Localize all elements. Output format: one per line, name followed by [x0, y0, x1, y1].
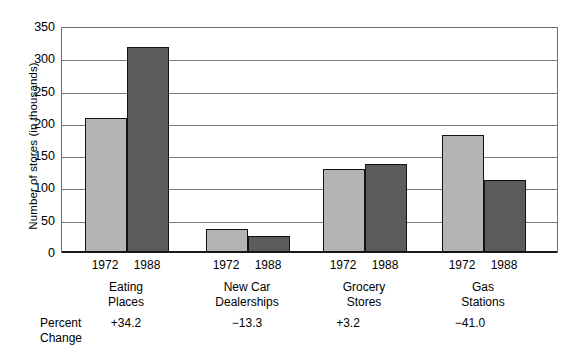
x-group-label-gas-stations: Gas Stations [461, 280, 504, 309]
y-tick-50: 50 [9, 214, 55, 227]
bar-eating-places-1988 [127, 47, 169, 252]
x-group-label-new-car-dealerships: New Car Dealerships [215, 280, 278, 309]
x-year-label-new-car-dealerships-1988: 1988 [255, 258, 282, 272]
y-tick-150: 150 [9, 150, 55, 163]
x-year-label-gas-stations-1988: 1988 [491, 258, 518, 272]
y-tick-250: 250 [9, 85, 55, 98]
y-tick-300: 300 [9, 53, 55, 66]
bar-new-car-dealerships-1972 [206, 229, 248, 252]
percent-change-eating-places: +34.2 [111, 316, 141, 331]
x-year-label-new-car-dealerships-1972: 1972 [213, 258, 240, 272]
x-group-label-eating-places: Eating Places [108, 280, 144, 309]
x-year-label-eating-places-1988: 1988 [134, 258, 161, 272]
x-group-label-line-2: Places [108, 295, 144, 310]
bar-grocery-stores-1988 [365, 164, 407, 252]
y-tick-100: 100 [9, 182, 55, 195]
percent-change-gas-stations: −41.0 [455, 316, 485, 331]
percent-change-new-car-dealerships: −13.3 [232, 316, 262, 331]
percent-change-row-label-line-2: Change [40, 331, 82, 346]
bar-eating-places-1972 [85, 118, 127, 252]
bar-gas-stations-1988 [484, 180, 526, 252]
percent-change-grocery-stores: +3.2 [336, 316, 360, 331]
x-group-label-line-1: New Car [215, 280, 278, 295]
x-group-label-grocery-stores: Grocery Stores [343, 280, 386, 309]
y-tick-350: 350 [9, 21, 55, 34]
y-axis-tick-labels: 350 300 250 200 150 100 50 0 [5, 27, 55, 253]
x-group-label-line-2: Stores [343, 295, 386, 310]
plot-area [61, 27, 558, 253]
x-year-label-eating-places-1972: 1972 [92, 258, 119, 272]
y-tick-200: 200 [9, 118, 55, 131]
x-group-label-line-2: Stations [461, 295, 504, 310]
percent-change-row-label: Percent Change [40, 316, 82, 345]
bar-new-car-dealerships-1988 [248, 236, 290, 252]
x-year-label-grocery-stores-1972: 1972 [330, 258, 357, 272]
x-group-label-line-1: Grocery [343, 280, 386, 295]
percent-change-row-label-line-1: Percent [40, 316, 82, 331]
x-group-label-line-1: Eating [108, 280, 144, 295]
bar-chart: Number of stores (in thousands) 350 300 … [0, 0, 577, 356]
x-year-label-gas-stations-1972: 1972 [449, 258, 476, 272]
x-group-label-line-1: Gas [461, 280, 504, 295]
x-group-label-line-2: Dealerships [215, 295, 278, 310]
bar-grocery-stores-1972 [323, 169, 365, 252]
y-tick-0: 0 [9, 247, 55, 260]
bar-gas-stations-1972 [442, 135, 484, 252]
x-year-label-grocery-stores-1988: 1988 [372, 258, 399, 272]
